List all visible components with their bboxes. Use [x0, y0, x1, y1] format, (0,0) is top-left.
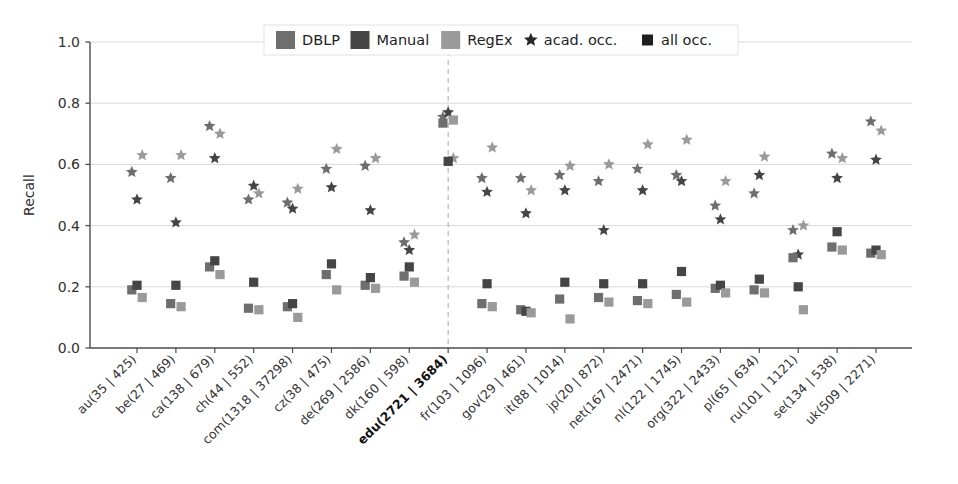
data-point	[410, 278, 419, 287]
data-point	[138, 293, 147, 302]
data-point	[244, 304, 253, 313]
data-point	[438, 118, 447, 127]
data-point	[677, 267, 686, 276]
y-tick-label: 0.6	[58, 156, 80, 172]
recall-scatter-chart: 0.00.20.40.60.81.0 Recall au(35 | 425)be…	[0, 0, 958, 484]
data-point	[444, 157, 453, 166]
data-point	[599, 279, 608, 288]
data-point	[877, 250, 886, 259]
data-point	[210, 256, 219, 265]
data-point	[750, 285, 759, 294]
data-point	[672, 290, 681, 299]
legend-label-dblp: DBLP	[302, 32, 340, 48]
y-tick-label: 0.8	[58, 95, 80, 111]
data-point	[371, 284, 380, 293]
data-point	[176, 302, 185, 311]
legend-label-acadocc: acad. occ.	[544, 32, 618, 48]
legend-marker-square	[642, 35, 653, 46]
data-point	[633, 296, 642, 305]
data-point	[799, 305, 808, 314]
legend-swatch-dblp	[276, 31, 295, 49]
data-point	[171, 281, 180, 290]
y-tick-label: 0.2	[58, 279, 80, 295]
data-point	[827, 242, 836, 251]
y-axis-title: Recall	[21, 174, 37, 216]
data-point	[322, 270, 331, 279]
data-point	[565, 314, 574, 323]
data-point	[215, 270, 224, 279]
data-point	[293, 313, 302, 322]
data-point	[560, 278, 569, 287]
legend-swatch-regex	[441, 31, 460, 49]
data-point	[755, 275, 764, 284]
data-point	[288, 299, 297, 308]
data-point	[254, 305, 263, 314]
data-point	[477, 299, 486, 308]
data-point	[132, 281, 141, 290]
y-tick-label: 0.4	[58, 218, 80, 234]
data-point	[594, 293, 603, 302]
data-point	[449, 115, 458, 124]
data-point	[527, 308, 536, 317]
y-tick-label: 0.0	[58, 340, 80, 356]
y-tick-label: 1.0	[58, 34, 80, 50]
chart-figure: 0.00.20.40.60.81.0 Recall au(35 | 425)be…	[0, 0, 958, 484]
data-point	[638, 279, 647, 288]
legend-swatch-manual	[351, 31, 370, 49]
legend-label-regex: RegEx	[467, 32, 513, 48]
legend-label-allocc: all occ.	[661, 32, 712, 48]
chart-legend: DBLPManualRegExacad. occ.all occ.	[264, 25, 738, 55]
data-point	[643, 299, 652, 308]
data-point	[833, 227, 842, 236]
legend-label-manual: Manual	[377, 32, 430, 48]
data-point	[760, 288, 769, 297]
data-point	[488, 302, 497, 311]
data-point	[721, 288, 730, 297]
data-point	[405, 262, 414, 271]
data-point	[838, 245, 847, 254]
data-point	[555, 294, 564, 303]
data-point	[166, 299, 175, 308]
data-point	[788, 253, 797, 262]
data-point	[794, 282, 803, 291]
data-point	[332, 285, 341, 294]
data-point	[399, 271, 408, 280]
data-point	[327, 259, 336, 268]
data-point	[366, 273, 375, 282]
data-point	[604, 298, 613, 307]
data-point	[482, 279, 491, 288]
data-point	[249, 278, 258, 287]
data-point	[682, 298, 691, 307]
